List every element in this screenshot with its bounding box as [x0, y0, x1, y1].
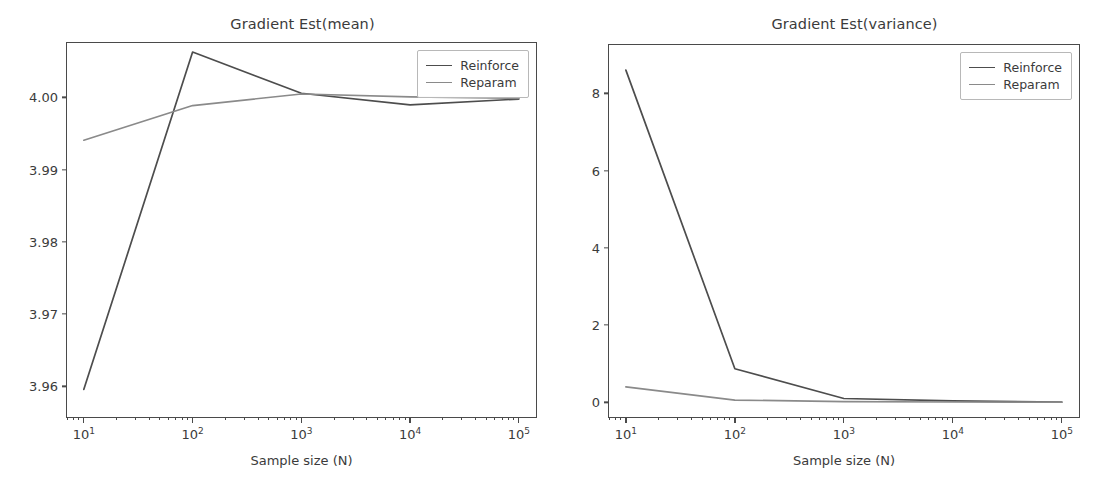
- x-tick-label: 102: [181, 426, 203, 442]
- chart-panel-mean: Gradient Est(mean) 3.963.973.983.994.001…: [0, 0, 555, 492]
- legend-line-swatch: [969, 67, 995, 68]
- series-line-reinforce: [84, 52, 519, 389]
- y-tick-label: 0: [592, 395, 600, 410]
- chart-title-mean: Gradient Est(mean): [25, 16, 580, 32]
- y-tick-label: 2: [592, 318, 600, 333]
- chart-panel-variance: Gradient Est(variance) 02468101102103104…: [555, 0, 1110, 492]
- legend-line-swatch: [426, 65, 452, 66]
- legend: ReinforceReparam: [960, 52, 1072, 100]
- legend-item-reinforce[interactable]: Reinforce: [426, 57, 519, 74]
- series-line-reparam: [626, 387, 1062, 402]
- plot-lines: [609, 45, 1081, 419]
- y-tick-label: 3.99: [29, 162, 58, 177]
- legend-item-reparam[interactable]: Reparam: [969, 76, 1062, 93]
- y-tick-label: 3.98: [29, 234, 58, 249]
- legend-label: Reinforce: [460, 58, 519, 73]
- legend-label: Reinforce: [1003, 60, 1062, 75]
- y-tick-label: 8: [592, 86, 600, 101]
- plot-lines: [67, 43, 538, 419]
- x-tick-label: 101: [615, 426, 637, 442]
- y-tick-label: 3.96: [29, 379, 58, 394]
- legend-label: Reparam: [1003, 77, 1059, 92]
- y-tick-label: 6: [592, 163, 600, 178]
- legend-item-reinforce[interactable]: Reinforce: [969, 59, 1062, 76]
- legend: ReinforceReparam: [417, 50, 529, 98]
- axes-variance: 02468101102103104105Sample size (N)Reinf…: [608, 44, 1080, 418]
- axes-mean: 3.963.973.983.994.00101102103104105Sampl…: [66, 42, 537, 418]
- y-tick-label: 3.97: [29, 307, 58, 322]
- series-line-reparam: [84, 94, 519, 140]
- x-tick-label: 104: [942, 426, 964, 442]
- figure: Gradient Est(mean) 3.963.973.983.994.001…: [0, 0, 1110, 492]
- chart-title-variance: Gradient Est(variance): [577, 16, 1110, 32]
- x-tick-label: 103: [290, 426, 312, 442]
- x-axis-label: Sample size (N): [250, 453, 352, 468]
- x-tick-label: 105: [508, 426, 530, 442]
- x-tick-label: 103: [833, 426, 855, 442]
- legend-item-reparam[interactable]: Reparam: [426, 74, 519, 91]
- legend-line-swatch: [426, 82, 452, 83]
- legend-label: Reparam: [460, 75, 516, 90]
- x-tick-label: 105: [1051, 426, 1073, 442]
- legend-line-swatch: [969, 84, 995, 85]
- x-tick-label: 101: [73, 426, 95, 442]
- x-tick-label: 102: [724, 426, 746, 442]
- series-line-reinforce: [626, 70, 1062, 402]
- x-tick-label: 104: [399, 426, 421, 442]
- y-tick-label: 4: [592, 240, 600, 255]
- y-tick-label: 4.00: [29, 90, 58, 105]
- x-axis-label: Sample size (N): [793, 453, 895, 468]
